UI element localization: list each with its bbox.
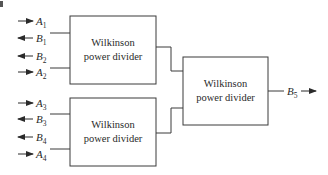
- edge-artifact: [0, 1, 3, 7]
- port-b1-label: B1: [36, 32, 47, 47]
- wilkinson-block-1: Wilkinson power divider: [70, 16, 156, 84]
- port-b2-label: B2: [36, 50, 47, 65]
- port-b4-label: B4: [36, 131, 47, 146]
- wilkinson-combiner-diagram: Wilkinson power divider Wilkinson power …: [0, 0, 328, 175]
- block-1-line-2: power divider: [84, 51, 143, 62]
- block-1-line-1: Wilkinson: [91, 37, 135, 48]
- connector-block2-block3: [156, 108, 183, 133]
- port-a1-label: A1: [35, 15, 47, 30]
- port-b3-label: B3: [36, 113, 47, 128]
- port-a2-label: A2: [35, 66, 47, 81]
- block-2-line-1: Wilkinson: [91, 119, 135, 130]
- wilkinson-block-3: Wilkinson power divider: [183, 57, 268, 125]
- port-b5-label: B5: [287, 85, 298, 100]
- wilkinson-block-2: Wilkinson power divider: [70, 98, 156, 166]
- connector-block1-block3: [156, 47, 183, 71]
- block-2-line-2: power divider: [84, 133, 143, 144]
- block-3-line-2: power divider: [196, 92, 255, 103]
- port-a3-label: A3: [35, 97, 47, 112]
- port-a4-label: A4: [35, 148, 47, 163]
- block-3-line-1: Wilkinson: [204, 78, 248, 89]
